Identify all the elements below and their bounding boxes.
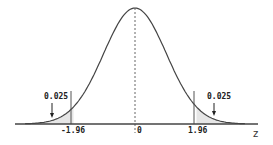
- left-tail-area-label: 0.025: [44, 93, 68, 101]
- tick-label-left: -1.96: [61, 127, 85, 135]
- axis-label-z: z: [253, 129, 258, 139]
- right-arrowhead: [212, 111, 216, 116]
- right-tail-area-label: 0.025: [207, 93, 231, 101]
- left-arrowhead: [50, 113, 54, 118]
- normal-curve-chart: [0, 0, 273, 145]
- tick-label-center: 0: [137, 127, 142, 135]
- tick-label-right: 1.96: [188, 127, 207, 135]
